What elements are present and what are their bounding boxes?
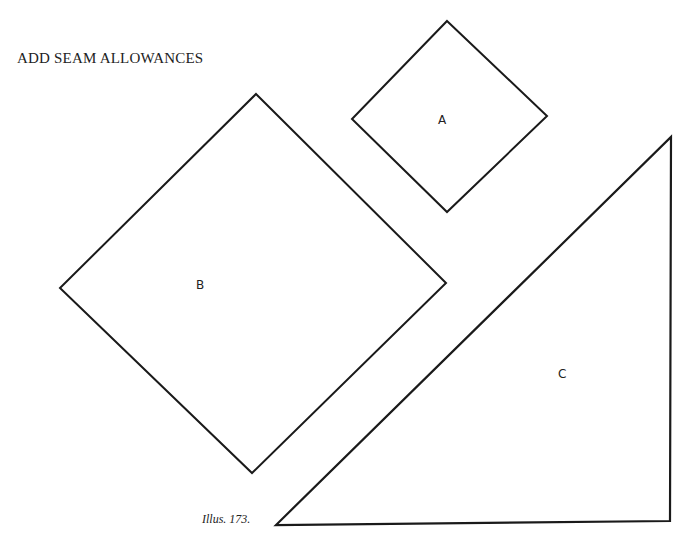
piece-a-label: A [438, 113, 446, 127]
piece-c-label: C [558, 367, 566, 381]
piece-b-label: B [196, 278, 204, 292]
piece-c-outline [276, 137, 671, 525]
piece-a-outline [352, 21, 547, 212]
illustration-caption: Illus. 173. [202, 512, 250, 527]
pattern-diagram [0, 0, 684, 549]
